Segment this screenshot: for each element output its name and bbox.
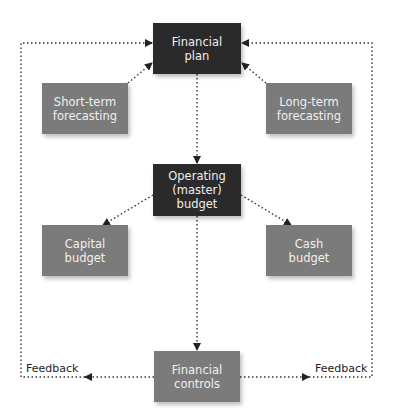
edge-operating-to-cash: [241, 195, 291, 225]
node-short-term-forecasting: Short-term forecasting: [42, 83, 128, 134]
edge-long-term-to-plan: [242, 63, 266, 83]
feedback-right-label: Feedback: [315, 362, 367, 375]
feedback-left-label: Feedback: [26, 362, 78, 375]
node-capital-budget: Capital budget: [42, 225, 128, 276]
node-financial-controls: Financial controls: [154, 351, 240, 402]
node-financial-plan: Financial plan: [153, 23, 241, 74]
node-long-term-forecasting: Long-term forecasting: [266, 83, 352, 134]
edge-short-term-to-plan: [128, 63, 152, 83]
node-operating-budget: Operating (master) budget: [153, 164, 241, 216]
edge-operating-to-capital: [103, 195, 153, 225]
node-cash-budget: Cash budget: [266, 225, 352, 276]
